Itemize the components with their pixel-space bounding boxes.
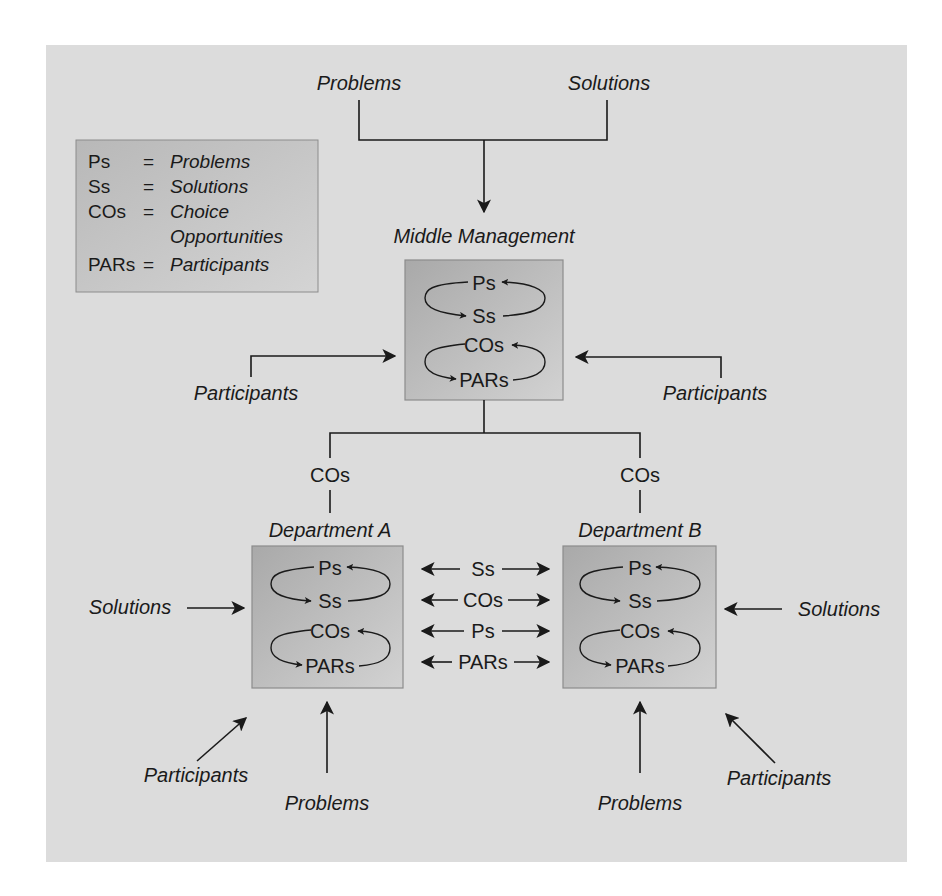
legend-eq: = xyxy=(143,176,154,197)
department-b-title: Department B xyxy=(578,519,701,541)
dept-a-problems-label: Problems xyxy=(285,792,369,814)
top-connector-line xyxy=(359,100,607,140)
mm-left-participants-label: Participants xyxy=(194,382,299,404)
mm-ps: Ps xyxy=(472,272,495,294)
dept-b-problems-label: Problems xyxy=(598,792,682,814)
legend-def-opportunities: Opportunities xyxy=(170,226,284,247)
dept-a-pars: PARs xyxy=(305,655,355,677)
department-exchanges: Ss COs Ps PARs xyxy=(422,558,549,673)
mm-right-participants-label: Participants xyxy=(663,382,768,404)
left-arrow-icon xyxy=(576,357,721,378)
exchange-cos: COs xyxy=(463,589,503,611)
garbage-can-diagram: Ps = Problems Ss = Solutions COs = Choic… xyxy=(0,0,942,896)
mm-cos: COs xyxy=(464,334,504,356)
legend-eq: = xyxy=(143,151,154,172)
mm-pars: PARs xyxy=(459,369,509,391)
legend-def-participants: Participants xyxy=(170,254,270,275)
dept-b-solutions-label: Solutions xyxy=(798,598,880,620)
top-problems-label: Problems xyxy=(317,72,401,94)
legend-def-solutions: Solutions xyxy=(170,176,249,197)
branches: COs COs xyxy=(310,400,660,513)
department-a-title: Department A xyxy=(269,519,392,541)
legend-eq: = xyxy=(143,254,154,275)
branch-right-cos: COs xyxy=(620,464,660,486)
exchange-pars: PARs xyxy=(458,651,508,673)
legend-abbr-ps: Ps xyxy=(88,151,110,172)
dept-b-ss: Ss xyxy=(628,590,651,612)
legend-abbr-pars: PARs xyxy=(88,254,135,275)
dept-b-ps: Ps xyxy=(628,557,651,579)
right-arrow-icon xyxy=(251,356,395,377)
exchange-ss: Ss xyxy=(471,558,494,580)
middle-management-title: Middle Management xyxy=(393,225,576,247)
diagonal-arrow-icon xyxy=(197,718,246,761)
top-solutions-label: Solutions xyxy=(568,72,650,94)
dept-b-pars: PARs xyxy=(615,655,665,677)
legend-def-choice: Choice xyxy=(170,201,229,222)
legend-def-problems: Problems xyxy=(170,151,251,172)
diagonal-arrow-icon xyxy=(726,714,775,763)
dept-a-ps: Ps xyxy=(318,557,341,579)
dept-a-participants-label: Participants xyxy=(144,764,249,786)
dept-a-ss: Ss xyxy=(318,590,341,612)
branch-left-cos: COs xyxy=(310,464,350,486)
legend-abbr-cos: COs xyxy=(88,201,126,222)
dept-a-cos: COs xyxy=(310,620,350,642)
branch-line xyxy=(330,433,640,458)
mm-ss: Ss xyxy=(472,305,495,327)
legend-abbr-ss: Ss xyxy=(88,176,110,197)
top-inputs: Problems Solutions xyxy=(317,72,650,212)
department-b: Department B Ps Ss COs PARs Solutions Pa… xyxy=(563,519,880,814)
dept-a-solutions-label: Solutions xyxy=(89,596,171,618)
legend-eq: = xyxy=(143,201,154,222)
legend: Ps = Problems Ss = Solutions COs = Choic… xyxy=(76,140,318,292)
exchange-ps: Ps xyxy=(471,620,494,642)
dept-b-cos: COs xyxy=(620,620,660,642)
dept-b-participants-label: Participants xyxy=(727,767,832,789)
department-a: Department A Ps Ss COs PARs Solutions Pa… xyxy=(89,519,403,814)
